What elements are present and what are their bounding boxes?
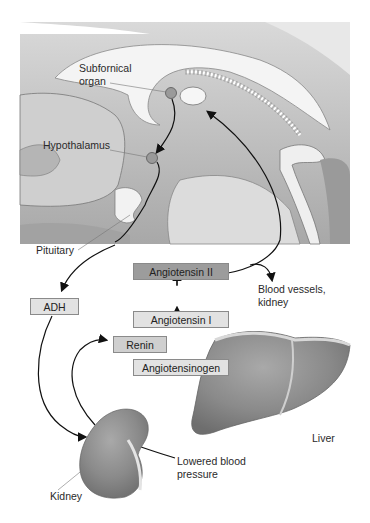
- angiotensin-i-box: Angiotensin I: [133, 311, 229, 328]
- subfornical-label-line2: organ: [79, 75, 132, 88]
- stimulus-line1: Lowered blood: [177, 455, 246, 468]
- kidney-illustration: [80, 409, 149, 498]
- stimulus-line2: pressure: [177, 468, 246, 481]
- pituitary-label: Pituitary: [36, 244, 74, 257]
- adh-box: ADH: [30, 298, 79, 315]
- renin-box: Renin: [113, 336, 167, 353]
- subfornical-label-line1: Subfornical: [79, 62, 132, 75]
- kidney-label: Kidney: [50, 490, 82, 503]
- liver-label: Liver: [312, 432, 335, 445]
- subfornical-organ-label: Subfornical organ: [79, 62, 132, 87]
- blood-vessels-line2: kidney: [258, 296, 326, 309]
- angiotensinogen-box: Angiotensinogen: [133, 359, 229, 376]
- blood-vessels-line1: Blood vessels,: [258, 283, 326, 296]
- liver-illustration: [192, 332, 350, 435]
- lowered-blood-pressure-label: Lowered blood pressure: [177, 455, 246, 480]
- subfornical-organ-dot: [166, 88, 177, 99]
- diagram-illustration: [0, 0, 370, 523]
- blood-vessels-kidney-label: Blood vessels, kidney: [258, 283, 326, 308]
- brain-illustration: [20, 22, 350, 244]
- hypothalamus-label: Hypothalamus: [43, 139, 110, 152]
- angiotensin-ii-box: Angiotensin II: [133, 263, 229, 280]
- hypothalamus-dot: [147, 153, 158, 164]
